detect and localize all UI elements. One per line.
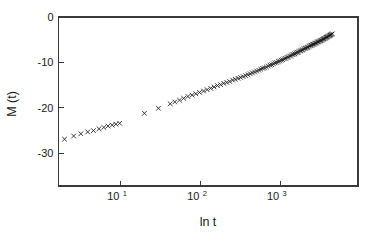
svg-text:10: 10 (107, 190, 119, 202)
svg-text:1: 1 (123, 189, 127, 198)
svg-text:3: 3 (283, 189, 287, 198)
plot-background (0, 0, 370, 236)
y-tick-label-0: 0 (47, 11, 53, 23)
y-tick-label-3: -30 (38, 147, 54, 159)
scatter-plot: 101102103 0-10-20-30 ln t M (t) (0, 0, 370, 236)
svg-text:2: 2 (203, 189, 207, 198)
y-axis-title: M (t) (5, 91, 19, 117)
figure-container: 101102103 0-10-20-30 ln t M (t) (0, 0, 370, 236)
x-axis-title: ln t (200, 215, 217, 229)
svg-text:10: 10 (267, 190, 279, 202)
y-tick-label-2: -20 (38, 102, 54, 114)
y-tick-label-1: -10 (38, 56, 54, 68)
svg-text:10: 10 (187, 190, 199, 202)
